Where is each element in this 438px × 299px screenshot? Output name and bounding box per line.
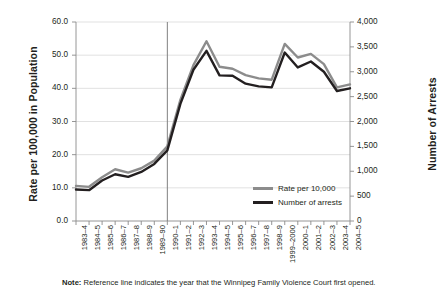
x-tick-label: 2001–2 [314, 225, 323, 271]
y-tick-label-right: 1,500 [357, 141, 393, 151]
chart-figure: Rate per 100,000 in Population Number of… [0, 0, 438, 299]
x-tick-label: 1989–90 [158, 225, 167, 271]
y-axis-title-right: Number of Arrests [426, 34, 438, 214]
y-tick-label-left: 50.0 [34, 50, 68, 60]
y-tick-label-left: 40.0 [34, 83, 68, 93]
legend-swatch-icon [253, 201, 273, 204]
y-tick-label-right: 3,000 [357, 67, 393, 77]
y-tick-label-left: 0.0 [34, 216, 68, 226]
legend-item-1: Number of arrests [253, 196, 342, 208]
x-tick-label: 1995–6 [236, 225, 245, 271]
x-tick-label: 1990–1 [171, 225, 180, 271]
x-tick-label: 1992–3 [197, 225, 206, 271]
x-tick-label: 1986–7 [119, 225, 128, 271]
x-tick-label: 2000–1 [301, 225, 310, 271]
x-tick-label: 2004–5 [354, 225, 363, 271]
y-tick-label-left: 60.0 [34, 17, 68, 27]
x-tick-label: 1988–9 [145, 225, 154, 271]
x-tick-label: 1984–5 [93, 225, 102, 271]
footnote-label: Note: [62, 278, 81, 287]
legend-swatch-icon [253, 187, 273, 190]
x-tick-label: 1999–2000 [288, 225, 297, 271]
y-tick-label-left: 20.0 [34, 150, 68, 160]
y-tick-label-right: 1,000 [357, 166, 393, 176]
x-tick-label: 2002–3 [328, 225, 337, 271]
y-tick-label-right: 2,000 [357, 117, 393, 127]
y-tick-label-right: 2,500 [357, 92, 393, 102]
x-tick-label: 1991–2 [184, 225, 193, 271]
x-tick-label: 1985–6 [106, 225, 115, 271]
x-tick-label: 1998–9 [275, 225, 284, 271]
y-tick-label-left: 10.0 [34, 183, 68, 193]
legend-label: Number of arrests [278, 198, 342, 207]
y-tick-label-right: 3,500 [357, 42, 393, 52]
x-tick-label: 1996–7 [249, 225, 258, 271]
x-tick-label: 1983–4 [80, 225, 89, 271]
chart-footnote: Note: Reference line indicates the year … [62, 278, 375, 287]
y-tick-label-right: 4,000 [357, 17, 393, 27]
legend-item-0: Rate per 10,000 [253, 182, 342, 194]
legend-label: Rate per 10,000 [278, 184, 335, 193]
x-tick-label: 1993–4 [210, 225, 219, 271]
x-tick-label: 1994–5 [223, 225, 232, 271]
chart-legend: Rate per 10,000Number of arrests [253, 182, 342, 210]
y-tick-label-right: 500 [357, 191, 393, 201]
x-tick-label: 1987–8 [132, 225, 141, 271]
x-tick-label: 1997–8 [262, 225, 271, 271]
x-tick-label: 2003–4 [341, 225, 350, 271]
y-tick-label-left: 30.0 [34, 117, 68, 127]
footnote-text: Reference line indicates the year that t… [81, 278, 375, 287]
